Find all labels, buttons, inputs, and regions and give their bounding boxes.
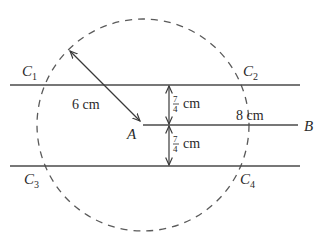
upper-distance-label: 7 4 cm xyxy=(173,94,200,114)
label-c2: C2 xyxy=(243,63,258,82)
label-b: B xyxy=(304,118,313,134)
svg-text:7: 7 xyxy=(173,134,178,144)
label-a: A xyxy=(126,126,137,142)
svg-text:cm: cm xyxy=(183,136,200,151)
svg-text:4: 4 xyxy=(173,104,178,114)
lower-distance-label: 7 4 cm xyxy=(173,134,200,154)
label-c4: C4 xyxy=(240,171,255,190)
svg-text:4: 4 xyxy=(173,144,178,154)
geometry-diagram: C1 C2 C3 C4 A B 6 cm 8 cm 7 4 cm 7 4 cm xyxy=(0,0,318,233)
ab-length-label: 8 cm xyxy=(236,108,264,123)
svg-text:cm: cm xyxy=(183,96,200,111)
svg-text:7: 7 xyxy=(173,94,178,104)
label-c3: C3 xyxy=(24,171,39,190)
radius-label: 6 cm xyxy=(72,97,100,112)
label-c1: C1 xyxy=(22,63,37,82)
